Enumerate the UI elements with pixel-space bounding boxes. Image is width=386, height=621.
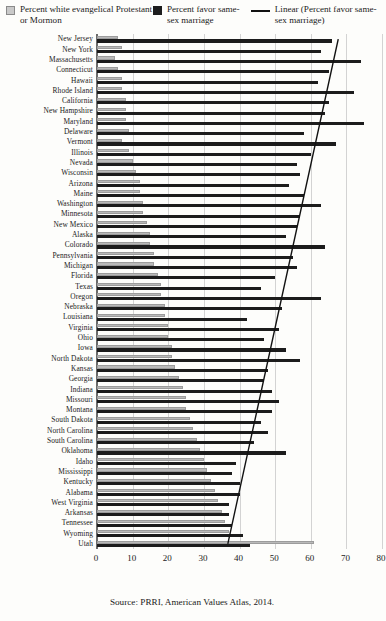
bar-group (97, 528, 381, 538)
bar-marriage (97, 451, 286, 454)
plot-grid (96, 34, 381, 549)
category-label: California (62, 97, 93, 104)
bar-group (97, 312, 381, 322)
source-note: Source: PRRI, American Values Atlas, 201… (0, 597, 384, 607)
bar-marriage (97, 307, 282, 310)
category-label: New York (62, 46, 93, 53)
category-label: Kentucky (63, 478, 93, 485)
bar-marriage (97, 390, 272, 393)
bar-group (97, 199, 381, 209)
bar-group (97, 178, 381, 188)
legend-label-trendline: Linear (Percent favor same-sex marriage) (275, 4, 382, 26)
category-label: Connecticut (56, 66, 93, 73)
bar-group (97, 137, 381, 147)
bar-group (97, 498, 381, 508)
bar-group (97, 456, 381, 466)
x-tick-label-70: 70 (341, 553, 350, 563)
bar-group (97, 539, 381, 549)
bar-group (97, 271, 381, 281)
bar-group (97, 230, 381, 240)
x-tick-label-0: 0 (94, 553, 99, 563)
bar-marriage (97, 318, 247, 321)
bar-group (97, 158, 381, 168)
bar-marriage (97, 421, 261, 424)
bar-marriage (97, 70, 329, 73)
bar-marriage (97, 431, 268, 434)
category-label: Missouri (66, 396, 93, 403)
category-label: North Carolina (47, 427, 93, 434)
category-label: Colorado (65, 241, 93, 248)
bar-group (97, 374, 381, 384)
legend-item-evangelical: Percent white evangelical Protestant or … (6, 4, 153, 32)
category-label: Tennessee (62, 519, 93, 526)
value-axis: 01020304050607080 (96, 549, 381, 569)
category-label: Utah (78, 540, 93, 547)
category-label: South Dakota (51, 416, 93, 423)
bar-group (97, 219, 381, 229)
bar-group (97, 189, 381, 199)
x-tick-label-10: 10 (127, 553, 136, 563)
bar-group (97, 168, 381, 178)
category-label: West Virginia (51, 499, 93, 506)
bar-marriage (97, 91, 354, 94)
bar-marriage (97, 112, 325, 115)
bar-marriage (97, 142, 336, 145)
bar-marriage (97, 297, 321, 300)
category-label: Montana (66, 406, 93, 413)
category-label: Louisiana (63, 313, 93, 320)
bar-marriage (97, 513, 229, 516)
category-label: Rhode Island (53, 87, 93, 94)
bar-marriage (97, 379, 264, 382)
chart-legend: Percent white evangelical Protestant or … (0, 0, 384, 34)
black-square-icon (153, 6, 162, 15)
category-label: Washington (57, 200, 93, 207)
bar-marriage (97, 256, 293, 259)
category-label: Wyoming (63, 530, 93, 537)
category-label: Georgia (69, 375, 93, 382)
bar-marriage (97, 81, 318, 84)
category-label: Nebraska (64, 303, 93, 310)
chart-plot-area: New JerseyNew YorkMassachusettsConnectic… (0, 34, 384, 561)
category-label: Iowa (78, 344, 93, 351)
bar-group (97, 425, 381, 435)
bar-group (97, 384, 381, 394)
category-label: Maine (74, 190, 93, 197)
category-label: Arizona (68, 180, 93, 187)
bar-group (97, 477, 381, 487)
legend-item-marriage: Percent favor same-sex marriage (153, 4, 251, 32)
bar-marriage (97, 369, 268, 372)
bar-group (97, 44, 381, 54)
bar-marriage (97, 410, 272, 413)
category-label: New Jersey (58, 35, 93, 42)
bar-group (97, 487, 381, 497)
category-label: North Dakota (51, 355, 93, 362)
bar-marriage (97, 400, 279, 403)
bar-group (97, 209, 381, 219)
bar-group (97, 436, 381, 446)
bar-marriage (97, 266, 297, 269)
bar-marriage (97, 524, 232, 527)
bar-group (97, 446, 381, 456)
category-label: Maryland (63, 118, 93, 125)
bar-marriage (97, 493, 240, 496)
bar-group (97, 65, 381, 75)
bar-group (97, 55, 381, 65)
category-label: South Carolina (47, 437, 93, 444)
x-tick-label-50: 50 (270, 553, 279, 563)
bar-group (97, 467, 381, 477)
bar-group (97, 333, 381, 343)
category-label: Vermont (67, 138, 93, 145)
bar-marriage (97, 60, 361, 63)
bar-marriage (97, 39, 332, 42)
category-label: Alabama (66, 489, 93, 496)
category-label: Idaho (76, 458, 93, 465)
bar-marriage (97, 245, 325, 248)
bar-group (97, 405, 381, 415)
category-label: Ohio (78, 334, 93, 341)
bar-marriage (97, 163, 297, 166)
bar-marriage (97, 482, 240, 485)
bar-group (97, 292, 381, 302)
category-label: Wisconsin (61, 169, 93, 176)
category-label: New Mexico (54, 221, 93, 228)
bar-group (97, 34, 381, 44)
